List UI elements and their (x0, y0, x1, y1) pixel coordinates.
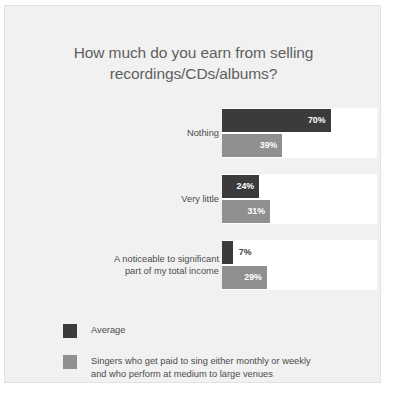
legend-label: Singers who get paid to sing either mont… (91, 353, 373, 380)
bar-value-label: 39% (260, 134, 278, 157)
bar-group: A noticeable to significant part of my t… (5, 240, 381, 290)
category-label-line: A noticeable to significant (114, 253, 219, 266)
chart-title: How much do you earn from selling record… (23, 42, 364, 84)
category-label-line: part of my total income (125, 265, 219, 278)
category-label: A noticeable to significant part of my t… (69, 240, 219, 290)
chart-title-line-2: recordings/CDs/albums? (23, 63, 364, 84)
legend-item-average: Average (63, 322, 373, 344)
bar-group: Very little 24% 31% (5, 174, 381, 224)
bar-average: 70% (222, 109, 331, 132)
bar-value-label: 70% (308, 109, 326, 132)
legend-swatch-icon (63, 355, 77, 369)
bar-value-label: 29% (244, 266, 262, 289)
bar-value-label: 31% (247, 200, 265, 223)
chart-panel: How much do you earn from selling record… (4, 5, 381, 383)
bar-value-label: 24% (237, 175, 255, 198)
chart-legend: Average Singers who get paid to sing eit… (63, 322, 373, 380)
bar-average: 7% (222, 241, 233, 264)
legend-label: Average (91, 322, 373, 337)
bar-average: 24% (222, 175, 259, 198)
bar-singers: 39% (222, 134, 282, 157)
bar-track: 7% 29% (222, 240, 377, 290)
legend-label-line: Average (91, 324, 373, 337)
legend-item-singers: Singers who get paid to sing either mont… (63, 353, 373, 380)
legend-label-line: and who perform at medium to large venue… (91, 368, 373, 381)
legend-label-line: Singers who get paid to sing either mont… (91, 355, 373, 368)
bar-group: Nothing 70% 39% (5, 108, 381, 158)
bar-singers: 31% (222, 200, 270, 223)
category-label: Nothing (69, 108, 219, 158)
plot-area: Nothing 70% 39% Very little 24% (5, 106, 381, 306)
bar-track: 24% 31% (222, 174, 377, 224)
bar-track: 70% 39% (222, 108, 377, 158)
category-label-line: Very little (181, 193, 219, 206)
category-label-line: Nothing (187, 127, 219, 140)
category-label: Very little (69, 174, 219, 224)
bar-value-label: 7% (239, 241, 252, 264)
chart-title-line-1: How much do you earn from selling (23, 42, 364, 63)
legend-swatch-icon (63, 324, 77, 338)
bar-singers: 29% (222, 266, 267, 289)
